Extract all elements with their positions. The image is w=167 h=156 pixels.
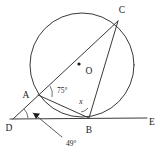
- label-point-C: C: [119, 5, 125, 15]
- chord-CB: [89, 21, 118, 118]
- line-DE: [10, 118, 147, 119]
- label-point-D: D: [6, 123, 13, 133]
- center-dot-icon: [77, 62, 80, 65]
- label-point-A: A: [23, 90, 30, 100]
- label-point-E: E: [149, 117, 155, 127]
- label-angle-x: x: [78, 97, 83, 106]
- label-angle-49: 49°: [66, 139, 77, 148]
- label-angle-75: 75°: [57, 86, 68, 95]
- geometry-figure: A B C D E O 75° x 49°: [0, 0, 167, 156]
- angle-arc-at-A: [50, 86, 52, 97]
- angle-arc-at-D: [24, 109, 28, 118]
- geometry-canvas: A B C D E O 75° x 49°: [0, 0, 167, 156]
- line-DAC: [13, 21, 118, 119]
- label-point-B: B: [86, 125, 92, 135]
- angle-arc-at-B: [81, 108, 88, 112]
- label-center-O: O: [86, 66, 93, 76]
